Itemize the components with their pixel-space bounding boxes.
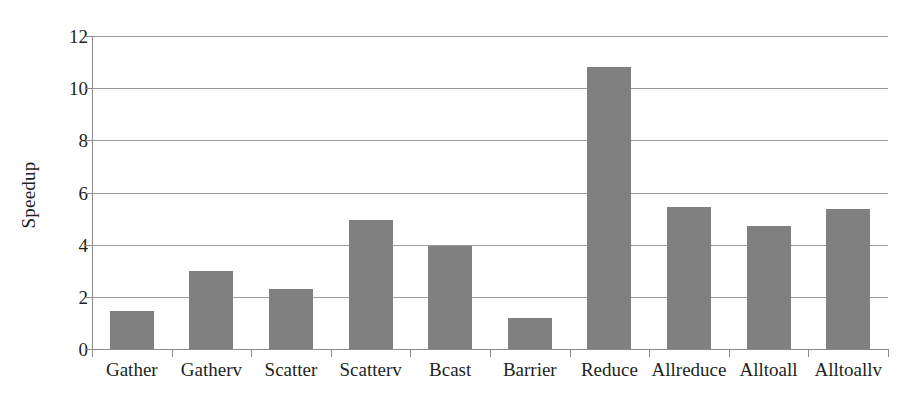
bar (667, 207, 711, 349)
y-axis-tick-label: 2 (44, 287, 88, 306)
bar-slot (490, 36, 570, 349)
y-axis-tick-label: 10 (44, 79, 88, 98)
bar-slot (331, 36, 411, 349)
x-axis-tick-mark (729, 350, 730, 357)
x-axis-tick-mark (888, 350, 889, 357)
bar (826, 209, 870, 349)
bar (269, 289, 313, 349)
plot-area (92, 36, 888, 349)
y-axis-tick-mark (85, 297, 93, 298)
y-axis-tick-mark (85, 140, 93, 141)
y-axis-tick-label: 4 (44, 235, 88, 254)
x-axis-tick-label: Alltoallv (814, 360, 882, 379)
y-axis-tick-mark (85, 193, 93, 194)
bar-slot (649, 36, 729, 349)
x-axis-tick-label: Allreduce (652, 360, 727, 379)
bar (508, 318, 552, 349)
bar-slot (729, 36, 809, 349)
bar-slot (92, 36, 172, 349)
y-axis-tick-mark (85, 349, 93, 350)
bar-slot (808, 36, 888, 349)
x-axis-tick-label: Alltoall (740, 360, 798, 379)
x-axis-tick-label: Gatherv (181, 360, 242, 379)
y-axis-tick-label: 8 (44, 131, 88, 150)
x-axis-tick-mark (92, 350, 93, 357)
bar-series (92, 36, 888, 349)
bar (349, 220, 393, 349)
speedup-bar-chart: Speedup 024681012 GatherGathervScatterSc… (0, 0, 920, 406)
bar (189, 271, 233, 349)
y-axis-tick-label: 6 (44, 183, 88, 202)
x-axis-tick-mark (490, 350, 491, 357)
x-axis-tick-mark (808, 350, 809, 357)
x-axis-tick-label: Bcast (429, 360, 471, 379)
x-axis-tick-mark (172, 350, 173, 357)
y-axis-tick-mark (85, 36, 93, 37)
x-axis-tick-label: Scatter (265, 360, 318, 379)
x-axis-tick-label: Reduce (581, 360, 638, 379)
x-axis-tick-mark (410, 350, 411, 357)
x-axis-tick-mark (570, 350, 571, 357)
bar (110, 311, 154, 349)
bar (587, 67, 631, 349)
x-axis-tick-mark (251, 350, 252, 357)
y-axis-tick-label: 0 (44, 340, 88, 359)
x-axis-tick-label: Scatterv (339, 360, 401, 379)
x-axis-tick-mark (649, 350, 650, 357)
bar-slot (410, 36, 490, 349)
y-axis-tick-mark (85, 88, 93, 89)
x-axis-tick-label: Gather (106, 360, 158, 379)
bar-slot (251, 36, 331, 349)
y-axis-tick-labels: 024681012 (24, 0, 88, 406)
y-axis-tick-mark (85, 245, 93, 246)
bar-slot (172, 36, 252, 349)
bar-slot (570, 36, 650, 349)
y-axis-tick-label: 12 (44, 27, 88, 46)
x-axis-tick-label: Barrier (503, 360, 557, 379)
x-axis-tick-mark (331, 350, 332, 357)
bar (747, 226, 791, 349)
bar (428, 246, 472, 349)
